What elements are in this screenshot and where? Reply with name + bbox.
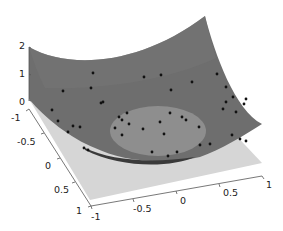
- scatter-point: [181, 116, 184, 119]
- scatter-point: [163, 133, 166, 136]
- x-tick-05: 0.5: [223, 187, 238, 198]
- scatter-point: [235, 111, 238, 114]
- scatter-point: [83, 147, 86, 150]
- scatter-point: [225, 86, 228, 89]
- disc-region: [110, 106, 206, 156]
- scatter-point: [160, 74, 163, 77]
- z-tick-1: 1: [19, 68, 25, 79]
- scatter-point: [185, 119, 188, 122]
- scatter-point: [245, 98, 248, 101]
- scatter-point: [79, 126, 82, 129]
- scatter-point: [90, 87, 93, 90]
- y-tick-1: 1: [76, 205, 82, 216]
- scatter-point: [128, 123, 131, 126]
- scatter-point: [121, 134, 124, 137]
- y-tick-neg1: -1: [11, 112, 20, 123]
- scatter-point: [167, 155, 170, 158]
- scatter-point: [169, 112, 172, 115]
- scatter-point: [198, 126, 201, 129]
- scatter-point: [72, 125, 75, 128]
- scatter-point: [114, 127, 117, 130]
- scatter-point: [225, 101, 228, 104]
- scatter-point: [62, 90, 65, 93]
- y-tick-05: 0.5: [54, 184, 69, 195]
- scatter-point: [209, 143, 212, 146]
- scatter-point: [243, 103, 246, 106]
- z-tick-0: 0: [19, 96, 25, 107]
- scatter-point: [118, 116, 121, 119]
- x-tick-neg1: -1: [91, 211, 100, 222]
- scatter-point: [142, 128, 145, 131]
- scatter-point: [87, 149, 90, 152]
- x-tick-1: 1: [266, 179, 272, 190]
- scatter-point: [102, 101, 105, 104]
- scatter-point: [245, 140, 248, 143]
- y-tick-0: 0: [45, 160, 51, 171]
- scatter-point: [143, 76, 146, 79]
- scatter-point: [191, 81, 194, 84]
- scatter-point: [231, 134, 234, 137]
- scatter-point: [121, 119, 124, 122]
- x-tick-neg05: -0.5: [133, 203, 152, 214]
- scatter-point: [126, 112, 129, 115]
- scatter-point: [92, 72, 95, 75]
- scatter-point: [199, 144, 202, 147]
- scatter-point: [239, 138, 242, 141]
- y-tick-neg05: -0.5: [17, 136, 36, 147]
- scatter-point: [170, 89, 173, 92]
- x-tick-0: 0: [180, 195, 186, 206]
- scatter-point: [57, 120, 60, 123]
- scatter-point: [159, 121, 162, 124]
- scatter-point: [176, 151, 179, 154]
- scatter-point: [151, 151, 154, 154]
- surface-3d-plot: 2 1 0 -1 -0.5 0 0.5 1 -1 -0.5 0 0.5 1: [0, 0, 283, 231]
- scatter-point: [222, 108, 225, 111]
- scatter-point: [51, 109, 54, 112]
- z-tick-2: 2: [19, 40, 25, 51]
- scatter-point: [232, 96, 235, 99]
- scatter-point: [216, 73, 219, 76]
- scatter-point: [67, 131, 70, 134]
